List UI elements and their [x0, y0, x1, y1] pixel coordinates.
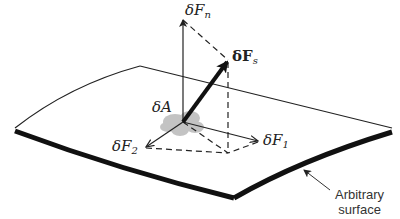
caption-leader-arrow: [304, 170, 330, 190]
caption-line-1: Arbitrary: [335, 187, 384, 202]
label-force-component-2: δF2: [112, 139, 138, 156]
force-diagram: δFn δFs δA δF2 δF1 Arbitrary surface: [0, 0, 400, 219]
dashed-f1-to-projection: [228, 142, 258, 153]
label-area: δA: [152, 100, 172, 115]
dashed-fn-to-fs: [183, 20, 228, 60]
caption-arbitrary-surface: Arbitrary surface: [335, 187, 384, 217]
dashed-f2-to-projection: [146, 148, 228, 153]
label-resultant-force: δFs: [232, 49, 258, 66]
label-force-component-1: δF1: [263, 133, 289, 150]
label-normal-force: δFn: [185, 3, 211, 20]
surface: [15, 66, 392, 198]
surface-back-left-edge: [15, 66, 140, 128]
resultant-force-vector: [183, 62, 227, 122]
caption-line-2: surface: [335, 202, 384, 217]
construction-lines: [146, 20, 258, 153]
